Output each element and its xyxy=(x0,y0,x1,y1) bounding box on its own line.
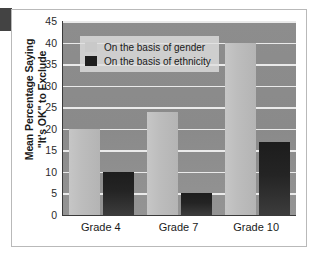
x-tick-grade-10: Grade 10 xyxy=(217,221,295,239)
y-tick-30: 30 xyxy=(33,80,57,91)
legend-label-gender: On the basis of gender xyxy=(104,42,205,53)
bar-grade-10-gender xyxy=(225,43,256,215)
y-tick-20: 20 xyxy=(33,123,57,134)
gridline-25 xyxy=(63,107,296,109)
bar-chart: Mean Percentage Saying "It's OK" to Excl… xyxy=(11,9,307,247)
bar-grade-10-ethnicity xyxy=(259,142,290,215)
legend-item-ethnicity: On the basis of ethnicity xyxy=(85,54,211,68)
legend-swatch-ethnicity xyxy=(85,56,97,66)
x-tick-grade-7: Grade 7 xyxy=(140,221,218,239)
legend-item-gender: On the basis of gender xyxy=(85,40,211,54)
y-tick-45: 45 xyxy=(33,16,57,27)
y-tick-40: 40 xyxy=(33,37,57,48)
y-axis-tick-labels: 051015202530354045 xyxy=(33,21,57,215)
bar-grade-7-gender xyxy=(147,112,178,215)
chart-page: Mean Percentage Saying "It's OK" to Excl… xyxy=(0,0,316,256)
y-tick-35: 35 xyxy=(33,59,57,70)
legend: On the basis of gender On the basis of e… xyxy=(80,36,219,72)
gridline-30 xyxy=(63,86,296,88)
y-tick-25: 25 xyxy=(33,102,57,113)
x-axis-tick-labels: Grade 4Grade 7Grade 10 xyxy=(62,221,295,239)
y-tick-15: 15 xyxy=(33,145,57,156)
legend-swatch-gender xyxy=(85,42,97,52)
bar-grade-4-ethnicity xyxy=(103,172,134,215)
bar-grade-7-ethnicity xyxy=(181,193,212,215)
bar-grade-4-gender xyxy=(69,129,100,215)
gridline-45 xyxy=(63,21,296,23)
y-tick-10: 10 xyxy=(33,166,57,177)
x-tick-grade-4: Grade 4 xyxy=(62,221,140,239)
y-tick-5: 5 xyxy=(33,188,57,199)
plot-area: On the basis of gender On the basis of e… xyxy=(62,21,296,216)
y-tick-0: 0 xyxy=(33,210,57,221)
legend-label-ethnicity: On the basis of ethnicity xyxy=(104,56,211,67)
